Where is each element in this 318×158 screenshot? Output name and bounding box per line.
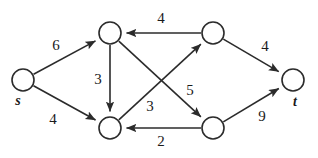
edge-weight-v1-v3: 3 (94, 71, 102, 87)
edge-weight-s-v1: 6 (52, 37, 60, 53)
edge-weight-v4-v3: 2 (157, 133, 165, 149)
edges-layer (34, 33, 279, 128)
node-labels-layer: st (14, 93, 298, 109)
graph-node-v4[interactable] (202, 117, 224, 139)
graph-edge-v4-t (223, 88, 279, 121)
graph-edge-s-v1 (34, 41, 96, 74)
graph-node-v1[interactable] (99, 22, 121, 44)
edge-weight-v1-v4: 5 (186, 82, 194, 98)
edge-weight-v2-t: 4 (261, 38, 269, 54)
edge-weight-v2-v1: 4 (157, 10, 165, 26)
node-label-t: t (293, 94, 298, 109)
graph-figure: 643435249 st (0, 0, 318, 158)
graph-edge-s-v3 (34, 86, 96, 120)
graph-edge-v2-t (223, 39, 278, 72)
edge-weight-s-v3: 4 (49, 111, 57, 127)
graph-edge-v1-v4 (119, 41, 201, 117)
graph-node-v2[interactable] (202, 22, 224, 44)
graph-node-t[interactable] (282, 69, 304, 91)
edge-weight-v4-t: 9 (258, 108, 266, 124)
edge-weight-v3-v2: 3 (146, 98, 154, 114)
graph-canvas: 643435249 st (0, 0, 318, 158)
node-label-s: s (14, 93, 21, 108)
graph-node-s[interactable] (12, 69, 34, 91)
graph-node-v3[interactable] (99, 117, 121, 139)
